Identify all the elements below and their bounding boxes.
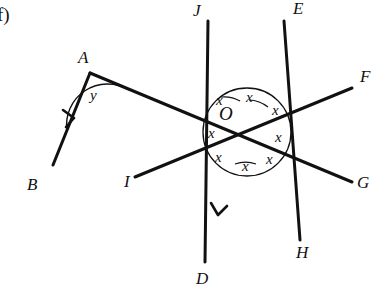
point-label-b: B <box>27 176 37 193</box>
angle-label-x-7: x <box>215 150 222 165</box>
geometry-diagram <box>0 0 379 292</box>
angle-label-x-1: x <box>216 93 223 108</box>
angle-label-y: y <box>90 88 97 103</box>
angle-label-x-5: x <box>266 152 273 167</box>
line-jd <box>205 21 208 262</box>
angle-label-x-4: x <box>275 130 282 145</box>
sector-arc-1 <box>221 97 240 101</box>
point-label-i: I <box>124 173 130 190</box>
line-ag <box>90 73 352 182</box>
arrowhead-od-icon <box>211 203 227 215</box>
point-label-f: F <box>360 68 370 85</box>
point-label-g: G <box>357 174 369 191</box>
angle-label-x-6: x <box>242 159 249 174</box>
point-label-j: J <box>193 2 201 19</box>
point-label-e: E <box>293 0 303 17</box>
angle-label-x-2: x <box>246 90 253 105</box>
line-eh <box>284 21 300 240</box>
point-label-h: H <box>296 244 308 261</box>
angle-label-x-8: x <box>208 126 215 141</box>
angle-label-x-3: x <box>272 103 279 118</box>
point-label-d: D <box>196 270 208 287</box>
point-label-a: A <box>78 49 88 66</box>
figure-container: f) A B I D J E F G H O y x <box>0 0 379 292</box>
